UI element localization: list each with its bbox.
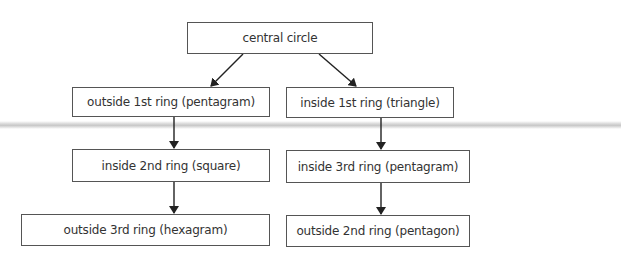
node-inside-1st-ring: inside 1st ring (triangle) (286, 87, 454, 118)
arrow-central-to-outside1 (211, 54, 243, 86)
arrow-central-to-inside1 (319, 54, 356, 86)
node-central-circle: central circle (187, 22, 373, 54)
node-outside-3rd-ring: outside 3rd ring (hexagram) (21, 214, 270, 246)
node-outside-2nd-ring: outside 2nd ring (pentagon) (286, 215, 470, 247)
node-inside-3rd-ring: inside 3rd ring (pentagram) (286, 150, 470, 183)
node-inside-2nd-ring: inside 2nd ring (square) (72, 149, 270, 182)
node-outside-1st-ring: outside 1st ring (pentagram) (72, 87, 270, 117)
